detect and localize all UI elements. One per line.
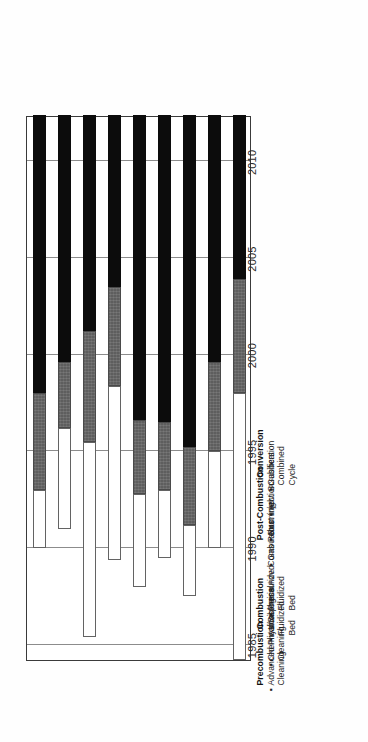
bar-segment-commercial — [183, 447, 196, 524]
bar-segment-demo — [133, 494, 146, 587]
bar-segment-demo — [108, 386, 121, 560]
bar-segment-widespread — [58, 115, 71, 362]
axis-tick-2000: 2000 — [246, 343, 258, 368]
group-heading-post-combustion: Post-Combustion — [255, 467, 265, 540]
bar-pressurized-fluidized-bed[interactable] — [108, 117, 121, 660]
bar-segment-commercial — [33, 393, 46, 490]
bar-segment-demo — [58, 428, 71, 528]
category-label-gasification-combined-cycle: ▪Gasification Combined Cycle — [266, 406, 297, 492]
bar-segment-commercial — [58, 362, 71, 428]
bar-segment-demo — [233, 393, 246, 660]
bullet-icon: ▪ — [266, 611, 276, 617]
bullet-icon: ▪ — [266, 511, 276, 517]
axis-tick-2010: 2010 — [246, 150, 258, 175]
bullet-icon: ▪ — [266, 661, 276, 667]
chart-plot-wrapper: Demonstrations1st Commercial PlantsWides… — [14, 21, 354, 721]
bar-segment-widespread — [233, 115, 246, 279]
category-labels: ▪Advanced Physical Cleaning▪Chemical/Bio… — [266, 116, 352, 661]
figure-canvas: Demonstrations1st Commercial PlantsWides… — [0, 0, 368, 742]
bar-segment-commercial — [83, 331, 96, 441]
bullet-icon: ▪ — [266, 486, 276, 492]
bar-segment-widespread — [108, 115, 121, 287]
bar-segment-commercial — [158, 422, 171, 490]
bullet-icon: ▪ — [266, 586, 276, 592]
plot-area — [26, 116, 251, 661]
bar-segment-demo — [83, 442, 96, 637]
bar-segment-demo — [208, 451, 221, 548]
bar-segment-widespread — [208, 115, 221, 362]
bar-segment-commercial — [108, 287, 121, 386]
bar-segment-demo — [33, 490, 46, 548]
bar-gasification-combined-cycle[interactable] — [233, 117, 246, 660]
bar-segment-demo — [183, 525, 196, 597]
bullet-icon: ▪ — [266, 536, 276, 542]
rotated-chart-container: Demonstrations1st Commercial PlantsWides… — [14, 21, 354, 721]
bar-advanced-physical-cleaning[interactable] — [33, 117, 46, 660]
bar-segment-commercial — [233, 279, 246, 393]
group-heading-precombustion: Precombustion — [255, 621, 265, 685]
group-heading-combustion: Combustion — [255, 578, 265, 629]
bar-segment-widespread — [33, 115, 46, 393]
bar-segment-widespread — [83, 115, 96, 331]
bar-gas-reburning[interactable] — [158, 117, 171, 660]
bar-segment-widespread — [133, 115, 146, 420]
chart-legend: Demonstrations1st Commercial PlantsWides… — [0, 116, 12, 661]
group-heading-conversion: Conversion — [255, 429, 265, 477]
bar-segment-widespread — [183, 115, 196, 447]
axis-tick-2005: 2005 — [246, 246, 258, 271]
bar-segment-demo — [158, 490, 171, 558]
bullet-icon: ▪ — [266, 686, 276, 692]
bar-segment-commercial — [133, 420, 146, 493]
bar-atmospheric-fluidized-bed[interactable] — [83, 117, 96, 660]
bullet-icon: ▪ — [266, 636, 276, 642]
bar-segment-commercial — [208, 362, 221, 451]
bullet-icon: ▪ — [266, 561, 276, 567]
bar-chemical-biological-cleaning[interactable] — [58, 117, 71, 660]
bar-adv-scrubbers[interactable] — [208, 117, 221, 660]
bar-adv-combustors[interactable] — [133, 117, 146, 660]
category-label-text: Gasification Combined Cycle — [266, 410, 297, 486]
bar-duct-injection[interactable] — [183, 117, 196, 660]
bar-segment-widespread — [158, 115, 171, 422]
